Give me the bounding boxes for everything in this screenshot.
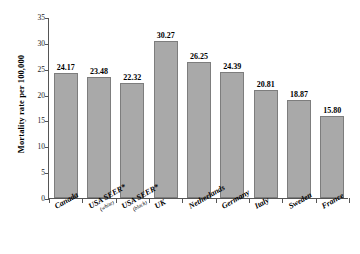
bar-value-label: 24.17 <box>52 63 79 72</box>
bar: 23.48 <box>87 77 111 198</box>
bar-slot: 24.39 <box>216 18 249 198</box>
bar-value-label: 15.80 <box>319 106 346 115</box>
y-axis-tick-label: 5 <box>32 168 45 178</box>
y-axis-tick-label: 0 <box>32 194 45 204</box>
bar-value-label: 22.32 <box>119 73 146 82</box>
y-axis-tick-label: 20 <box>32 91 45 101</box>
bar: 24.39 <box>220 72 244 198</box>
bar-slot: 18.87 <box>282 18 315 198</box>
bar: 22.32 <box>120 83 144 198</box>
bar-slot: 22.32 <box>116 18 149 198</box>
bar: 24.17 <box>54 73 78 198</box>
y-axis-tick-label: 15 <box>32 116 45 126</box>
bar-slot: 23.48 <box>82 18 115 198</box>
bar-slot: 26.25 <box>182 18 215 198</box>
y-axis-tick-label: 35 <box>32 13 45 23</box>
bar-value-label: 24.39 <box>219 62 246 71</box>
bar-value-label: 20.81 <box>252 80 279 89</box>
bar-slot: 15.80 <box>316 18 349 198</box>
bar-value-label: 30.27 <box>152 31 179 40</box>
y-axis-tick-label: 10 <box>32 142 45 152</box>
y-axis-title: Mortality rate per 100,000 <box>14 4 28 204</box>
y-axis-tick-label: 30 <box>32 39 45 49</box>
bar-slot: 30.27 <box>149 18 182 198</box>
bars-layer: 24.1723.4822.3230.2726.2524.3920.8118.87… <box>49 18 348 198</box>
bar: 15.80 <box>320 116 344 198</box>
bar-value-label: 23.48 <box>85 67 112 76</box>
y-axis-tick-label: 25 <box>32 65 45 75</box>
x-axis-labels: CanadaUSA SEER*(white)USA SEER*(black)UK… <box>48 201 348 254</box>
bar: 30.27 <box>154 41 178 198</box>
bar-value-label: 26.25 <box>185 52 212 61</box>
bar: 26.25 <box>187 62 211 198</box>
bar-chart: Mortality rate per 100,000 0510152025303… <box>0 0 360 254</box>
bar: 18.87 <box>287 100 311 198</box>
bar-value-label: 18.87 <box>285 90 312 99</box>
plot-area: 05101520253035 24.1723.4822.3230.2726.25… <box>48 18 348 199</box>
x-axis-tick-mark <box>349 198 350 203</box>
bar-slot: 24.17 <box>49 18 82 198</box>
bar: 20.81 <box>254 90 278 198</box>
bar-slot: 20.81 <box>249 18 282 198</box>
